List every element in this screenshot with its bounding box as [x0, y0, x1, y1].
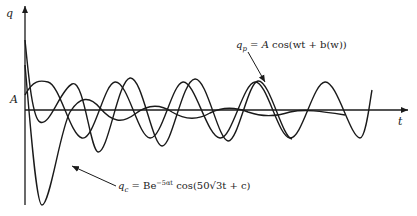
transient-leader-arrow: [72, 166, 116, 186]
x-axis-label: t: [398, 116, 402, 127]
steady-state-equation: qp = A cos(wt + b(w)): [236, 40, 347, 53]
transient-coefficient: Be: [143, 180, 156, 191]
steady-state-leader-arrow: [248, 52, 265, 82]
amplitude-marker: A: [10, 94, 18, 105]
response-diagram: q t A qp = A cos(wt + b(w)) qc = Be−5αt …: [0, 0, 417, 216]
steady-state-equals: =: [247, 39, 262, 50]
steady-state-rhs: cos(wt + b(w)): [269, 39, 347, 50]
transient-equation: qc = Be−5αt cos(50√3t + c): [118, 180, 251, 194]
y-axis-label: q: [6, 8, 13, 19]
transient-exponent: −5αt: [156, 179, 173, 187]
transient-rhs: cos(50√3t + c): [173, 180, 251, 191]
steady-state-amplitude: A: [262, 39, 269, 50]
total-response-curve: [25, 40, 292, 152]
transient-equals: =: [128, 180, 143, 191]
